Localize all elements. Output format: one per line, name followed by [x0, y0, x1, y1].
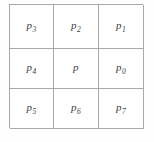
- grid-cell-row2-col2-center: p: [54, 49, 99, 89]
- cell-label-p4: p4: [27, 62, 37, 75]
- grid-cell-row3-col2: p6: [54, 89, 99, 129]
- grid-cell-row2-col3: p0: [99, 49, 144, 89]
- figure-container: p3 p2 p1 p4 p p0 p5 p6 p7: [0, 0, 154, 142]
- cell-label-p0: p0: [116, 62, 126, 75]
- cell-label-p-center: p: [73, 62, 79, 75]
- grid-cell-row1-col2: p2: [54, 5, 99, 49]
- cell-label-p5: p5: [27, 102, 37, 115]
- cell-label-p3: p3: [27, 20, 37, 33]
- grid-cell-row2-col1: p4: [10, 49, 54, 89]
- grid-cell-row3-col1: p5: [10, 89, 54, 129]
- pixel-neighborhood-grid: p3 p2 p1 p4 p p0 p5 p6 p7: [9, 4, 143, 128]
- cell-label-p6: p6: [71, 102, 81, 115]
- grid-cell-row3-col3: p7: [99, 89, 144, 129]
- grid-cell-row1-col3: p1: [99, 5, 144, 49]
- grid-cell-row1-col1: p3: [10, 5, 54, 49]
- cell-label-p7: p7: [116, 102, 126, 115]
- cell-label-p1: p1: [116, 20, 126, 33]
- cell-label-p2: p2: [71, 20, 81, 33]
